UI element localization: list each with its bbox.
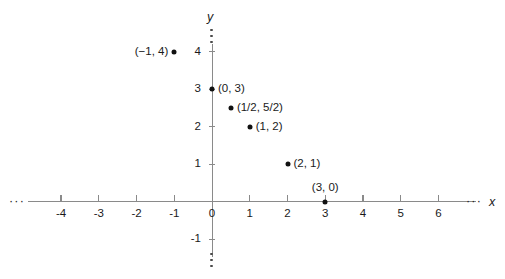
x-tick-label: -1	[169, 208, 179, 220]
x-tick-mark	[60, 195, 61, 201]
y-tick-mark	[209, 51, 215, 52]
x-tick-mark	[174, 195, 175, 201]
x-tick-mark	[287, 195, 288, 201]
data-point-label: (−1, 4)	[135, 46, 169, 58]
x-axis-left-ellipsis: ···	[9, 195, 25, 208]
y-axis-line	[212, 44, 213, 257]
data-point-marker	[228, 105, 233, 110]
data-point-label: (2, 1)	[294, 158, 321, 170]
data-point-marker	[172, 49, 177, 54]
x-tick-label: 6	[435, 208, 441, 220]
x-axis-right-ellipsis: ···	[466, 195, 482, 208]
x-tick-label: -2	[131, 208, 141, 220]
x-tick-label: 1	[247, 208, 253, 220]
y-tick-mark	[209, 239, 215, 240]
coordinate-plane-chart: ··· ··· x y -4-3-2-10123456 4321-1 (−1, …	[0, 0, 505, 279]
y-axis-label: y	[207, 11, 213, 24]
x-tick-label: 0	[209, 208, 215, 220]
x-tick-mark	[98, 195, 99, 201]
x-tick-label: 3	[322, 208, 328, 220]
x-tick-mark	[400, 195, 401, 201]
y-tick-label: 2	[0, 121, 201, 133]
data-point-marker	[323, 199, 328, 204]
data-point-label: (1, 2)	[256, 121, 283, 133]
data-point-marker	[210, 87, 215, 92]
x-tick-label: 4	[360, 208, 366, 220]
y-tick-mark	[209, 164, 215, 165]
x-tick-label: -4	[56, 208, 66, 220]
x-tick-mark	[362, 195, 363, 201]
y-tick-label: 1	[0, 158, 201, 170]
x-tick-mark	[136, 195, 137, 201]
data-point-label: (1/2, 5/2)	[237, 102, 283, 114]
data-point-marker	[247, 124, 252, 129]
x-tick-mark	[249, 195, 250, 201]
x-tick-label: 5	[398, 208, 404, 220]
y-tick-label: -1	[0, 233, 201, 245]
y-axis-top-ellipsis	[209, 29, 214, 46]
x-tick-label: -3	[94, 208, 104, 220]
data-point-marker	[285, 162, 290, 167]
data-point-label: (3, 0)	[312, 181, 339, 193]
x-tick-mark	[438, 195, 439, 201]
y-tick-mark	[209, 126, 215, 127]
y-tick-label: 3	[0, 83, 201, 95]
data-point-label: (0, 3)	[218, 83, 245, 95]
y-axis-bottom-ellipsis	[209, 253, 214, 270]
x-axis-line	[28, 201, 476, 202]
x-tick-label: 2	[284, 208, 290, 220]
x-axis-label: x	[489, 196, 495, 209]
